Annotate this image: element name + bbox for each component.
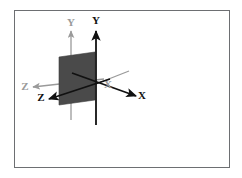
y-axis-secondary-label: Y [67, 16, 75, 28]
y-axis-primary-label: Y [92, 14, 100, 26]
z-axis-primary-label: Z [37, 91, 44, 103]
z-axis-secondary-label: Z [21, 80, 28, 92]
x-axis-primary-label: X [138, 89, 146, 101]
axes-diagram-svg: Y Y X X Z Z [0, 0, 242, 178]
x-axis-secondary-label: X [104, 78, 112, 90]
figure-root: Y Y X X Z Z [0, 0, 242, 178]
